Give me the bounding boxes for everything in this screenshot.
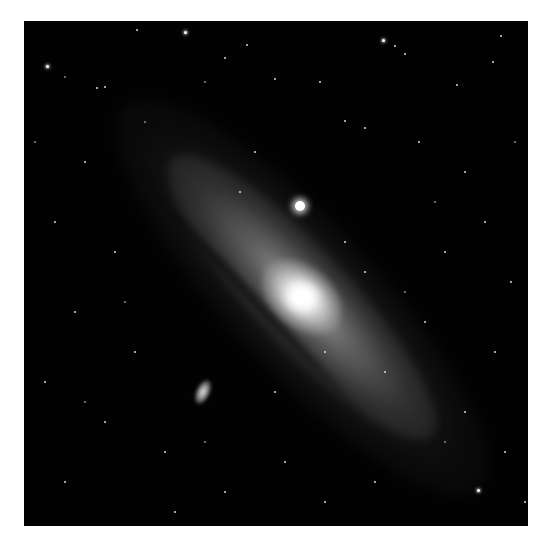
- companion-galaxy-elliptical: [191, 377, 215, 406]
- companion-galaxy-compact: [295, 201, 305, 211]
- galaxy-photograph: [24, 21, 528, 526]
- galaxy-core: [293, 290, 311, 304]
